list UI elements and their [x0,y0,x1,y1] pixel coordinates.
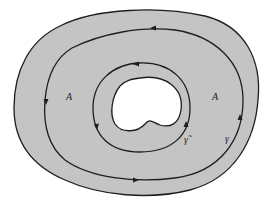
diagram-svg [0,0,274,204]
gamma-label: γ [225,134,229,144]
annulus-diagram: A A γ̃ γ [0,0,274,204]
region-label-right: A [212,92,218,102]
hole [112,77,181,130]
gamma-tilde-label: γ̃ [184,135,188,145]
region-label-left: A [66,92,72,102]
